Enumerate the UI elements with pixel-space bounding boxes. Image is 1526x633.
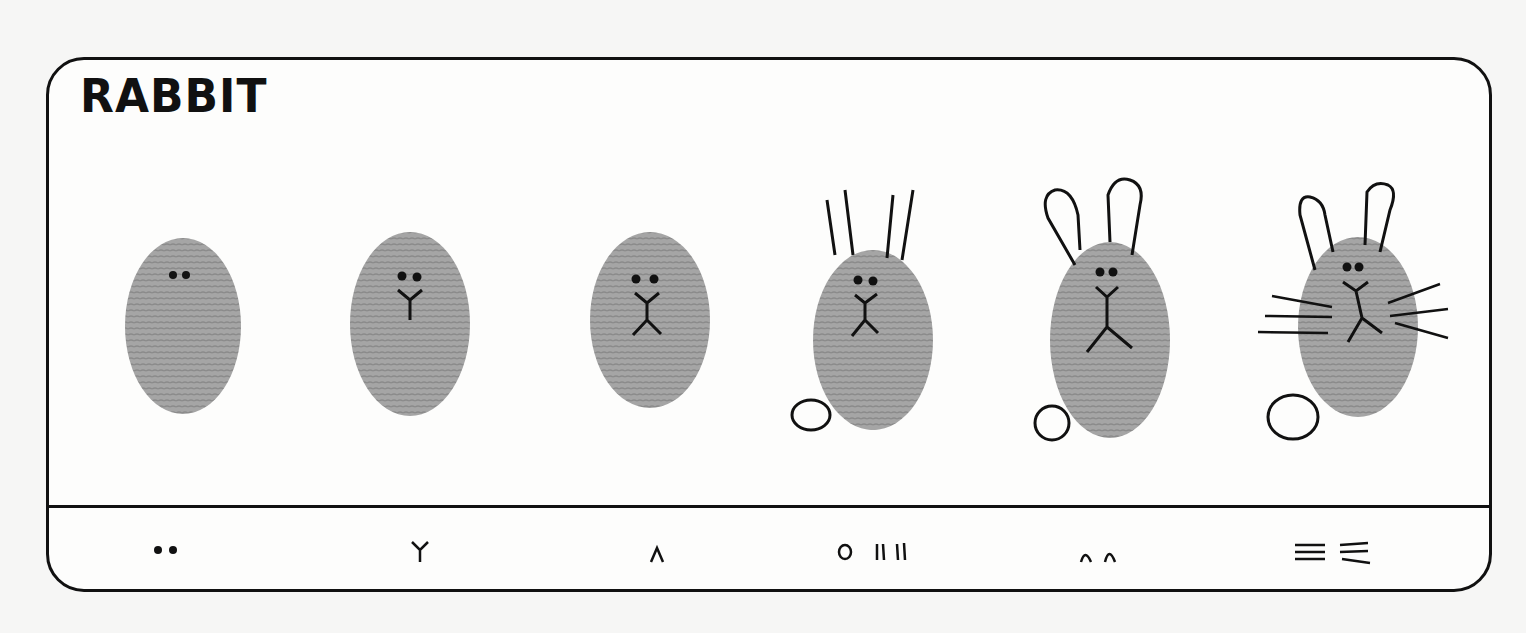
legend-tail-ear-lines (800, 530, 960, 570)
eye-icon (854, 276, 863, 285)
eye-icon (650, 275, 659, 284)
tail-icon (1035, 406, 1069, 440)
page-title: RABBIT (80, 69, 267, 123)
legend-whiskers (1260, 530, 1420, 570)
eye-icon (869, 277, 878, 286)
tail-icon (1268, 395, 1318, 439)
legend-nose (340, 530, 500, 570)
eye-icon (413, 273, 422, 282)
eye-icon (169, 271, 177, 279)
legend-eyes (95, 530, 255, 570)
step-1-eyes (68, 170, 298, 460)
legend-divider (46, 505, 1492, 508)
fingerprint-body (590, 232, 710, 408)
step-3-mouth (535, 170, 765, 460)
eye-icon (632, 275, 641, 284)
step-6-whiskers (1240, 170, 1470, 460)
tail-icon (792, 400, 830, 430)
fingerprint-body (125, 238, 241, 414)
fingerprint-body (350, 232, 470, 416)
ear-lines-icon (827, 190, 913, 260)
eye-icon (398, 272, 407, 281)
eye-icon (1096, 268, 1105, 277)
step-4-ears-tail (765, 170, 995, 460)
eye-icon (1109, 268, 1118, 277)
eye-icon (1355, 263, 1364, 272)
legend-ear-loops (1033, 530, 1193, 570)
legend-mouth (577, 530, 737, 570)
step-5-ear-loops (1000, 170, 1230, 460)
ear-left-icon (1045, 190, 1080, 265)
eye-icon (182, 271, 190, 279)
eye-icon (1343, 263, 1352, 272)
step-2-nose (295, 170, 525, 460)
